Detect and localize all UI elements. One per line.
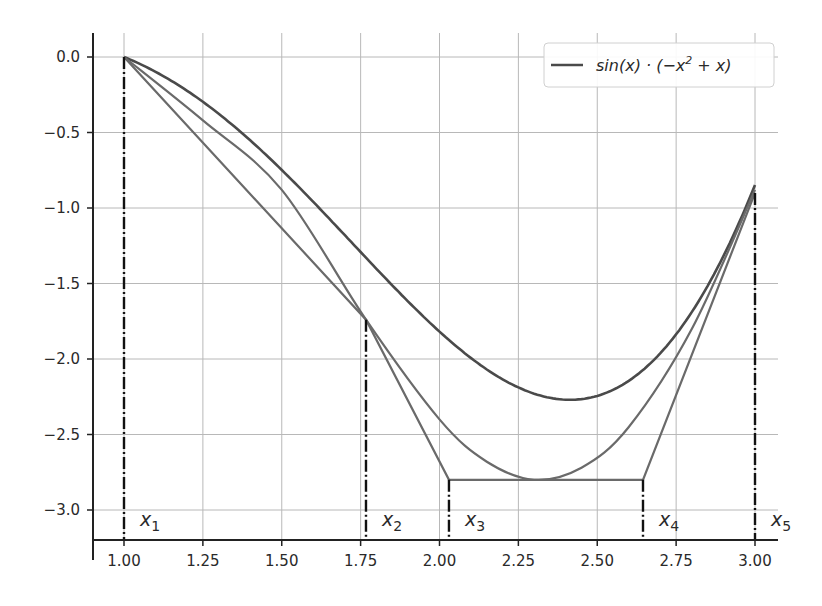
marker-label-x1: x1: [139, 508, 160, 534]
marker-label-x2: x2: [381, 508, 402, 534]
x-tick-label: 2.00: [423, 552, 456, 570]
x-tick-label: 2.50: [581, 552, 614, 570]
marker-label-x5: x5: [770, 508, 791, 534]
y-tick-label: −2.0: [44, 350, 80, 368]
y-tick-label: 0.0: [56, 48, 80, 66]
legend: sin(x) · (−x2 + x): [544, 43, 774, 87]
x-tick-label: 2.75: [659, 552, 692, 570]
x-tick-label: 3.00: [738, 552, 771, 570]
y-tick-label: −1.5: [44, 275, 80, 293]
grid-lines: [93, 33, 778, 540]
y-tick-label: −2.5: [44, 426, 80, 444]
y-tick-label: −0.5: [44, 124, 80, 142]
x-tick-label: 1.75: [344, 552, 377, 570]
marker-label-x3: x3: [464, 508, 485, 534]
y-tick-label: −3.0: [44, 501, 80, 519]
axes: [93, 33, 778, 560]
x-tick-label: 2.25: [502, 552, 535, 570]
y-tick-label: −1.0: [44, 199, 80, 217]
chart-canvas: x1x2x3x4x5 1.001.251.501.752.002.252.502…: [0, 0, 822, 606]
tick-labels: 1.001.251.501.752.002.252.502.753.000.0−…: [44, 48, 772, 570]
x-tick-label: 1.00: [107, 552, 140, 570]
legend-label: sin(x) · (−x2 + x): [596, 54, 732, 75]
vertical-markers: x1x2x3x4x5: [124, 57, 791, 540]
x-tick-label: 1.25: [186, 552, 219, 570]
x-tick-label: 1.50: [265, 552, 298, 570]
